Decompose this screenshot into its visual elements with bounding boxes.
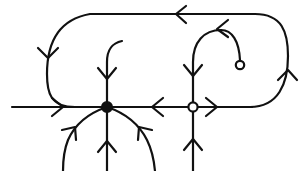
saddle-point-marker [188, 102, 197, 111]
arrow-spiral [217, 20, 228, 37]
saddle-separatrices [193, 30, 221, 171]
arrowheads [38, 6, 297, 152]
closed-periodic-orbit [47, 14, 288, 107]
phase-portrait-figure [0, 0, 306, 171]
equilibrium-markers [102, 61, 244, 112]
arrow-orbit-right [278, 70, 297, 80]
stable-node-marker [102, 102, 112, 112]
curve-lower-left-into-node [63, 107, 107, 171]
spiral-terminus-marker [236, 61, 244, 69]
vertical-into-stable-node-top [107, 41, 122, 107]
phase-portrait-canvas [0, 0, 306, 171]
vertical-into-saddle-top [193, 30, 221, 107]
orbit-path [47, 14, 288, 107]
curve-lower-right-into-node [107, 107, 155, 171]
